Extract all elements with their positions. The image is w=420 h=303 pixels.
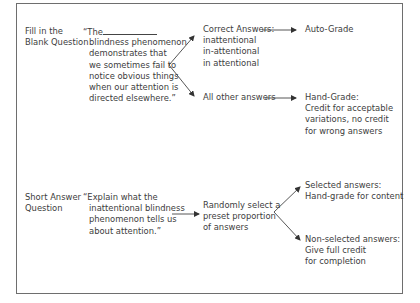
outcome-line: Non-selected answers: [305,234,400,244]
question-line: about attention.” [89,226,161,236]
question-line: notice obvious things [89,71,179,81]
step-line: of answers [203,222,248,232]
question-line: “Explain what the [83,192,158,202]
condition-line: in-attentional [203,46,259,56]
outcome-line: Credit for acceptable [305,103,393,113]
outcome-line: variations, no credit [305,114,389,124]
row1-question-body: blindness phenomenon demonstrates that w… [89,37,187,104]
outcome-line: Hand-grade for content [305,191,403,201]
selected-answers: Selected answers: Hand-grade for content [305,180,403,202]
outcome-line: Hand-Grade: [305,92,359,102]
outcome-line: for completion [305,256,366,266]
condition-line: Correct Answers: [203,24,274,34]
non-selected-answers: Non-selected answers: Give full credit f… [305,234,400,268]
row2-question-body: inattentional blindness phenomenon tells… [89,203,185,237]
label-line: Blank Question [25,37,88,47]
condition-line: inattentional [203,35,256,45]
step-line: Randomly select a [203,200,280,210]
question-line: when our attention is [89,82,178,92]
label-line: Fill in the [25,26,63,36]
row2-question: “Explain what the [83,192,158,203]
condition-line: All other answers [203,92,276,102]
row1-label: Fill in the Blank Question [25,26,88,48]
blank-line [103,26,157,35]
condition-line: in attentional [203,58,259,68]
outcome-line: Give full credit [305,245,366,255]
correct-answers: Correct Answers: inattentional in-attent… [203,24,274,69]
question-line: demonstrates that [89,48,167,58]
question-line: blindness phenomenon [89,37,187,47]
question-line: directed elsewhere.” [89,93,176,103]
question-line: inattentional blindness [89,203,185,213]
question-line: we sometimes fail to [89,60,176,70]
random-select-step: Randomly select a preset proportion of a… [203,200,280,234]
label-line: Short Answer [25,192,81,202]
question-prefix: “The [83,27,103,37]
hand-grade: Hand-Grade: Credit for acceptable variat… [305,92,393,137]
outcome-line: for wrong answers [305,126,382,136]
row2-label: Short Answer Question [25,192,81,214]
outcome-line: Auto-Grade [305,24,353,34]
outcome-line: Selected answers: [305,180,381,190]
step-line: preset proportion [203,211,276,221]
all-other-answers: All other answers [203,92,276,103]
label-line: Question [25,203,62,213]
question-line: phenomenon tells us [89,214,177,224]
auto-grade: Auto-Grade [305,24,353,35]
